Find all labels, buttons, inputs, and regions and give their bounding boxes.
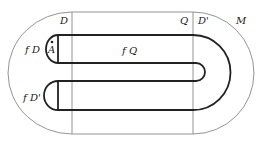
point-a-dot <box>51 41 54 44</box>
label-fd-prime: f D' <box>22 92 41 103</box>
outer-region-m <box>8 12 254 134</box>
label-fd: f D <box>24 44 40 55</box>
label-q: Q <box>180 15 188 26</box>
label-m: M <box>235 15 247 26</box>
horseshoe-band <box>58 35 231 110</box>
label-d-prime: D' <box>197 15 209 26</box>
horseshoe-map-diagram: D Q D' M f D A f Q f D' <box>0 0 262 144</box>
cap-fd-prime <box>44 81 58 110</box>
label-a: A <box>47 44 55 55</box>
label-fq: f Q <box>121 45 137 56</box>
label-d: D <box>59 15 68 26</box>
